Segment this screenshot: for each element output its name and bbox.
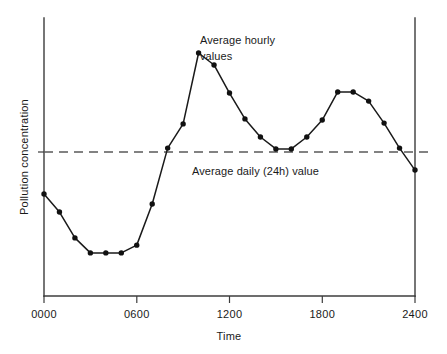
data-point-markers xyxy=(41,50,417,255)
data-point-0 xyxy=(41,191,46,196)
data-point-1400 xyxy=(258,134,263,139)
x-axis-title: Time xyxy=(217,330,242,342)
data-point-1300 xyxy=(242,116,247,121)
x-axis-ticks xyxy=(44,296,415,303)
x-tick-label-1200: 1200 xyxy=(217,308,243,320)
data-point-1200 xyxy=(227,90,232,95)
data-point-2200 xyxy=(381,120,386,125)
data-point-700 xyxy=(150,201,155,206)
data-point-800 xyxy=(165,145,170,150)
x-tick-label-2400: 2400 xyxy=(402,308,428,320)
data-point-200 xyxy=(72,235,77,240)
hourly-annotation: Average hourly values xyxy=(200,34,276,62)
hourly-annotation-line1: Average hourly xyxy=(200,34,276,46)
data-point-2100 xyxy=(366,98,371,103)
daily-annotation-label: Average daily (24h) value xyxy=(192,165,319,177)
data-point-1900 xyxy=(335,89,340,94)
data-point-900 xyxy=(180,121,185,126)
x-tick-label-1800: 1800 xyxy=(309,308,335,320)
x-tick-labels: 0000 0600 1200 1800 2400 xyxy=(31,308,428,320)
data-point-500 xyxy=(119,250,124,255)
data-point-1600 xyxy=(289,146,294,151)
average-hourly-values-line xyxy=(44,53,415,253)
data-point-600 xyxy=(134,242,139,247)
data-point-1100 xyxy=(211,62,216,67)
x-tick-label-0000: 0000 xyxy=(31,308,57,320)
hourly-annotation-line2: values xyxy=(200,50,233,62)
chart-canvas: 0000 0600 1200 1800 2400 Time Pollution … xyxy=(0,0,447,354)
data-point-2400 xyxy=(412,167,417,172)
x-tick-label-0600: 0600 xyxy=(124,308,150,320)
y-axis-title: Pollution concentration xyxy=(18,99,30,215)
data-point-2300 xyxy=(397,145,402,150)
data-point-1700 xyxy=(304,134,309,139)
data-point-300 xyxy=(88,250,93,255)
data-point-1800 xyxy=(320,117,325,122)
data-point-1500 xyxy=(273,146,278,151)
data-point-400 xyxy=(103,250,108,255)
data-point-2000 xyxy=(350,89,355,94)
pollution-concentration-chart: 0000 0600 1200 1800 2400 Time Pollution … xyxy=(0,0,447,354)
data-point-100 xyxy=(57,209,62,214)
